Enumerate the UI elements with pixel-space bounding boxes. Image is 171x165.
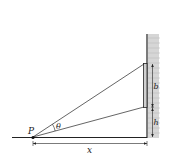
label-p: P: [27, 126, 35, 136]
angle-arc: [53, 124, 56, 131]
label-x: x: [87, 145, 92, 155]
label-b: b: [154, 82, 159, 91]
diagram-canvas: P θ b h x: [0, 0, 171, 165]
sight-line-bottom: [33, 107, 144, 137]
point-p-marker: [31, 136, 34, 139]
label-theta: θ: [56, 122, 61, 131]
painting: [144, 64, 148, 108]
label-h: h: [154, 118, 159, 127]
sight-line-top: [33, 64, 144, 137]
